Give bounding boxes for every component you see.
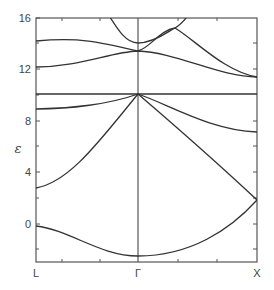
y-tick-8: 8 [25, 115, 31, 127]
y-tick-0: 0 [25, 218, 31, 230]
x-tick-gamma: Γ [135, 267, 141, 279]
plot-frame [36, 18, 257, 262]
y-axis-label: ε [15, 141, 22, 156]
band-3 [36, 94, 257, 132]
y-tick-4: 4 [25, 166, 31, 178]
bands [36, 10, 257, 256]
y-tick-12: 12 [19, 63, 31, 75]
y-tick-16: 16 [19, 12, 31, 24]
x-ticks [62, 18, 217, 262]
y-ticks-right [253, 43, 257, 249]
x-tick-X: X [253, 267, 261, 279]
band-1 [36, 200, 257, 256]
band-structure-chart: 16 12 8 4 0 ε L Γ X [0, 0, 274, 290]
band-6 [36, 28, 257, 77]
band-2 [36, 94, 257, 200]
band-7 [108, 10, 192, 43]
x-tick-L: L [33, 267, 39, 279]
